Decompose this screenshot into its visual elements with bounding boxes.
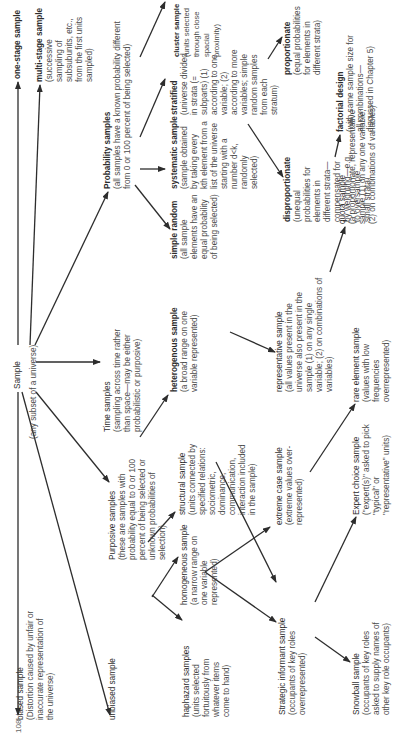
node-sample: Sample	[13, 361, 23, 389]
node-desc: (all samples have a known probability di…	[113, 9, 133, 189]
node-time: Time samples (sampling across time rathe…	[103, 322, 143, 432]
node-desc: (successive sampling of subsubunits, etc…	[45, 7, 95, 82]
node-desc: (a proportionate, representative sample …	[348, 104, 378, 224]
node-snowball: Snowball sample (occupants of key roles …	[352, 610, 392, 715]
node-title: Time samples	[103, 322, 113, 432]
node-cluster: cluster sample (units selected through c…	[172, 1, 222, 57]
node-title: Sample	[13, 361, 23, 389]
node-one-stage: one-stage sample	[13, 10, 23, 79]
node-title: multi-stage sample	[35, 7, 45, 82]
node-desc: ("expert(s)" asked to pick "typical" or …	[362, 420, 392, 515]
node-multi-stage: multi-stage sample (successive sampling …	[35, 7, 95, 82]
node-systematic: systematic sample (sample obtained by ta…	[170, 121, 260, 189]
node-simple-random: simple random (all sample elements have …	[170, 194, 220, 259]
node-title: haphazard samples	[182, 647, 192, 717]
node-desc: (occupants of key roles asked to supply …	[362, 610, 392, 715]
node-title: one-stage sample	[13, 10, 23, 79]
node-rare-element: rare element sample (values with low fre…	[352, 317, 392, 402]
node-desc: (these are samples with probability equa…	[118, 435, 168, 560]
node-structural: structural sample (units connected by sp…	[178, 437, 258, 515]
node-proportionate: proportionate (equal probabilities for e…	[283, 5, 323, 75]
node-desc: (units selected fortuitously from whatev…	[192, 647, 232, 717]
node-desc: (sampling across time rather than space—…	[113, 322, 143, 432]
node-desc: (units connected by specified relations:…	[188, 437, 258, 515]
node-desc: (a broad range on one variable represent…	[180, 310, 200, 392]
node-desc: (extreme values over-represented)	[285, 445, 305, 525]
node-title: representative sample	[275, 277, 285, 392]
node-heterogeneous: heterogenous sample (a broad range on on…	[170, 310, 200, 392]
node-title: Expert choice sample	[352, 420, 362, 515]
node-unbiased: unbiased sample	[108, 658, 118, 720]
node-probability: Probability samples (all samples have a …	[103, 9, 133, 189]
node-title: biased sample	[16, 605, 26, 720]
node-title: unbiased sample	[108, 658, 118, 720]
node-desc: (values with low frequencies overreprese…	[362, 317, 392, 402]
node-title: simple random	[170, 194, 180, 259]
node-title: proportionate	[283, 5, 293, 75]
node-title: systematic sample	[170, 121, 180, 189]
node-desc: (all sample elements have an equal proba…	[180, 194, 220, 259]
node-title: Strategic informant sample	[278, 600, 288, 715]
node-title: cluster sample	[172, 1, 182, 57]
node-quota: quota sample (a proportionate, represent…	[338, 104, 378, 224]
node-desc: (equal probabilities for elements in dif…	[293, 5, 323, 75]
node-desc: (sample obtained by taking every kth ele…	[180, 121, 260, 189]
node-title: Purposive samples	[108, 435, 118, 560]
node-desc: (Distortion caused by unfair or inaccura…	[26, 605, 56, 720]
node-desc: (universe divided in strata (= subparts)…	[180, 47, 280, 115]
node-extreme-case: extreme case sample (extreme values over…	[275, 445, 305, 525]
node-biased: biased sample (Distortion caused by unfa…	[16, 605, 56, 720]
node-title: Snowball sample	[352, 610, 362, 715]
node-desc: (all values present in the universe also…	[285, 277, 335, 392]
rotated-diagram-page: Sample (any subset of a universe) biased…	[0, 0, 394, 737]
node-expert-choice: Expert choice sample ("expert(s)" asked …	[352, 420, 392, 515]
node-representative: representative sample (all values presen…	[275, 277, 335, 392]
node-desc: (a narrow range on one variable represen…	[190, 525, 220, 605]
node-title: extreme case sample	[275, 445, 285, 525]
node-haphazard: haphazard samples (units selected fortui…	[182, 647, 232, 717]
node-title: Probability samples	[103, 9, 113, 189]
node-sample-desc: (any subset of a universe)	[29, 345, 39, 439]
node-title: structural sample	[178, 437, 188, 515]
node-desc: (any subset of a universe)	[29, 345, 39, 439]
node-stratified: stratified (universe divided in strata (…	[170, 47, 280, 115]
node-strategic-informant: Strategic informant sample (occupants of…	[278, 600, 308, 715]
node-desc: (occupants of key roles overrepresented)	[288, 600, 308, 715]
node-title: stratified	[170, 47, 180, 115]
node-purposive: Purposive samples (these are samples wit…	[108, 435, 168, 560]
page-number: 108	[14, 720, 23, 733]
node-title: disproportionate	[283, 152, 293, 222]
node-title: quota sample	[338, 104, 348, 224]
node-title: heterogenous sample	[170, 310, 180, 392]
node-title: homogeneous sample	[180, 525, 190, 605]
node-desc: (units selected through close spacial pr…	[182, 1, 222, 57]
node-title: rare element sample	[352, 317, 362, 402]
node-homogeneous: homogeneous sample (a narrow range on on…	[180, 525, 220, 605]
